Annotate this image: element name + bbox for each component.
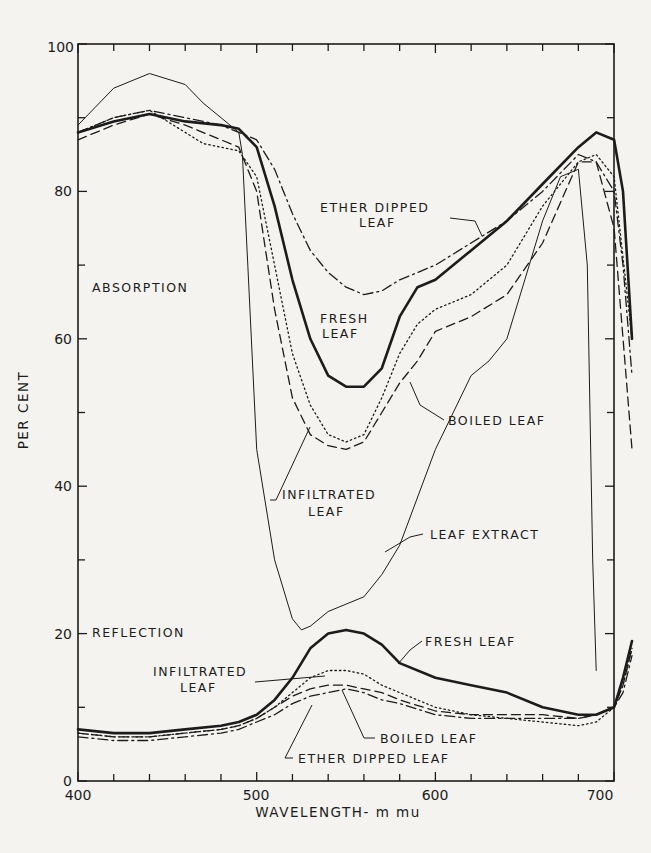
fresh-label-2: LEAF xyxy=(322,326,359,341)
ether-dipped-leader xyxy=(450,218,482,236)
y-axis-label: PER CENT xyxy=(15,371,31,450)
x-tick-labels: 400 500 600 700 xyxy=(65,787,614,803)
y-tick-20: 20 xyxy=(54,626,72,642)
absorption-fresh-leaf-curve xyxy=(78,114,632,387)
r-infiltrated-label-1: INFILTRATED xyxy=(153,664,247,679)
infiltrated-label-1: INFILTRATED xyxy=(282,487,376,502)
y-tick-60: 60 xyxy=(54,331,72,347)
r-ether-label: ETHER DIPPED LEAF xyxy=(298,751,449,766)
y-tick-100: 100 xyxy=(47,39,74,55)
annotations: ABSORPTION REFLECTION ETHER DIPPED LEAF … xyxy=(92,200,545,766)
reflection-label: REFLECTION xyxy=(92,625,185,640)
x-axis-label: WAVELENGTH- m mu xyxy=(255,804,421,820)
x-tick-400: 400 xyxy=(65,787,92,803)
r-fresh-leader xyxy=(398,641,422,664)
absorption-reflection-chart: 0 20 40 60 80 100 400 500 600 700 WAVELE… xyxy=(0,0,651,853)
ether-dipped-label-2: LEAF xyxy=(359,215,396,230)
x-tick-600: 600 xyxy=(422,787,449,803)
x-tick-700: 700 xyxy=(587,787,614,803)
y-tick-40: 40 xyxy=(54,478,72,494)
infiltrated-label-2: LEAF xyxy=(308,504,345,519)
ether-dipped-label-1: ETHER DIPPED xyxy=(320,200,429,215)
absorption-leaf-extract-curve xyxy=(78,74,596,671)
reflection-boiled-leaf-curve xyxy=(78,648,632,737)
boiled-label: BOILED LEAF xyxy=(448,413,545,428)
absorption-infiltrated-leaf-curve xyxy=(78,110,632,442)
absorption-label: ABSORPTION xyxy=(92,280,188,295)
y-tick-labels: 0 20 40 60 80 100 xyxy=(47,39,74,789)
leaf-extract-label: LEAF EXTRACT xyxy=(430,527,539,542)
r-infiltrated-label-2: LEAF xyxy=(180,680,217,695)
y-tick-80: 80 xyxy=(54,183,72,199)
boiled-leader xyxy=(410,382,444,420)
r-boiled-label: BOILED LEAF xyxy=(380,731,477,746)
x-tick-500: 500 xyxy=(243,787,270,803)
r-boiled-leader xyxy=(342,690,375,738)
reflection-infiltrated-leaf-curve xyxy=(78,648,632,737)
curves xyxy=(78,74,632,741)
r-fresh-label: FRESH LEAF xyxy=(425,634,516,649)
fresh-label-1: FRESH xyxy=(320,311,369,326)
leaf-extract-leader xyxy=(385,534,423,552)
